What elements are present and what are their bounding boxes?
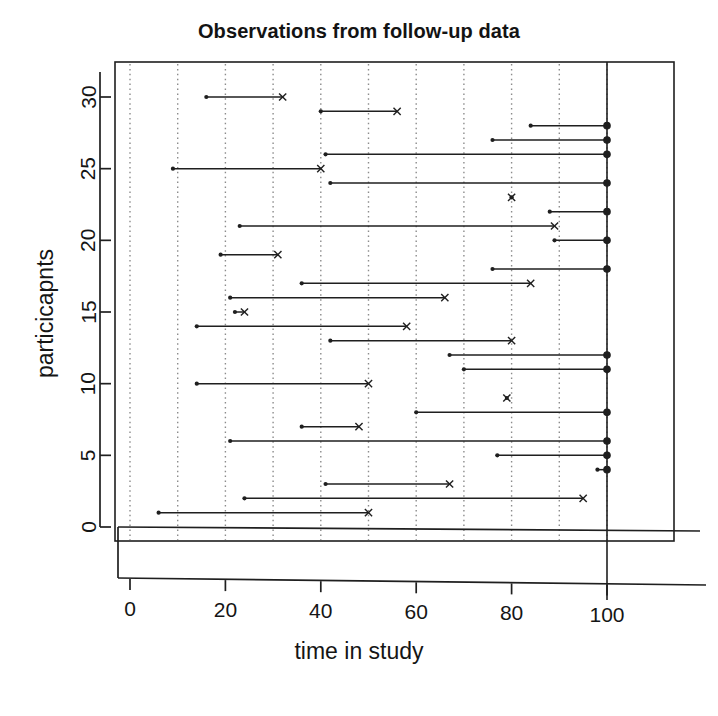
y-tick-label-30: 30 (77, 85, 100, 108)
segment-participant-7 (300, 423, 363, 430)
plot-box (115, 62, 674, 541)
x-tick-label-100: 100 (589, 603, 624, 626)
segment-participant-24 (328, 180, 610, 186)
x-tick-label-60: 60 (405, 600, 428, 623)
segment-participant-21 (238, 222, 559, 229)
segment-participant-8 (414, 409, 610, 415)
segment-participant-23 (508, 194, 515, 201)
y-tick-label-15: 15 (77, 300, 100, 323)
x-axis-label: time in study (0, 638, 718, 665)
y-tick-label-10: 10 (77, 372, 100, 395)
segment-participant-14 (195, 323, 411, 330)
segment-participant-6 (228, 438, 610, 444)
chart-figure: Observations from follow-up data 0204060… (0, 0, 718, 716)
segment-participant-2 (242, 495, 586, 502)
segment-participant-28 (529, 122, 611, 128)
segment-participant-4 (595, 466, 610, 472)
segment-participant-16 (228, 294, 448, 301)
segment-participant-12 (447, 352, 610, 358)
segment-participant-5 (495, 452, 610, 458)
y-axis-label: particicapnts (32, 184, 59, 444)
chart-plot-area: 020406080100051015202530 (0, 0, 718, 716)
segment-participant-13 (328, 337, 515, 344)
x-axis-line (118, 578, 706, 585)
segment-participant-11 (462, 366, 610, 372)
segment-participant-26 (323, 151, 610, 157)
segment-participant-9 (503, 394, 510, 401)
segment-participant-25 (171, 165, 325, 172)
x-tick-label-80: 80 (500, 601, 523, 624)
segment-participant-10 (195, 380, 372, 387)
baseline-y0 (118, 527, 700, 531)
y-tick-label-5: 5 (77, 449, 100, 461)
segment-participant-3 (323, 480, 453, 487)
y-tick-label-25: 25 (77, 157, 100, 180)
y-tick-label-0: 0 (77, 521, 100, 533)
segment-participant-19 (219, 251, 282, 258)
segment-participant-15 (233, 308, 248, 315)
segment-participant-29 (319, 108, 401, 115)
x-tick-label-40: 40 (309, 599, 332, 622)
segment-participant-1 (157, 509, 373, 516)
segment-participant-18 (490, 266, 610, 272)
x-tick-label-20: 20 (214, 598, 237, 621)
segment-participant-22 (548, 208, 611, 214)
segment-participant-30 (204, 93, 286, 100)
segment-participant-27 (490, 137, 610, 143)
segment-participant-17 (300, 280, 535, 287)
segment-participant-20 (552, 237, 610, 243)
y-tick-label-20: 20 (77, 229, 100, 252)
x-tick-label-0: 0 (124, 597, 136, 620)
